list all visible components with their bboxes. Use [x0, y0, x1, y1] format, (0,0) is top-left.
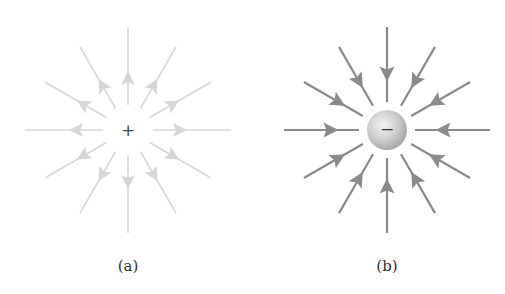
panel-a-caption: (a)	[118, 257, 139, 275]
field-line	[150, 82, 211, 118]
field-line	[401, 47, 435, 106]
field-line	[401, 154, 435, 213]
field-line	[80, 47, 116, 108]
arrowhead-outward-icon	[164, 146, 180, 159]
arrowhead-outward-icon	[99, 79, 112, 95]
field-line	[45, 82, 106, 118]
field-line	[411, 144, 470, 178]
arrowhead-outward-icon	[77, 101, 93, 114]
field-line	[141, 47, 177, 108]
field-line	[304, 82, 363, 116]
field-line	[339, 47, 373, 106]
panel-b-caption: (b)	[376, 257, 397, 275]
field-line	[339, 154, 373, 213]
arrowhead-outward-icon	[164, 101, 180, 114]
field-line	[150, 143, 211, 179]
field-line	[141, 152, 177, 213]
minus-sign-icon: −	[380, 119, 394, 139]
arrowhead-outward-icon	[99, 166, 112, 182]
field-line	[45, 143, 106, 179]
negative-charge-panel: −	[284, 27, 490, 233]
arrowhead-outward-icon	[77, 146, 93, 159]
field-line	[304, 144, 363, 178]
arrowhead-outward-icon	[144, 79, 157, 95]
electric-field-figure: + − (a) (b)	[0, 0, 505, 294]
field-line	[411, 82, 470, 116]
arrowhead-outward-icon	[144, 166, 157, 182]
positive-charge-panel: +	[25, 27, 231, 233]
field-lines-diagram: + −	[0, 0, 505, 294]
plus-sign-icon: +	[121, 120, 135, 140]
field-line	[80, 152, 116, 213]
